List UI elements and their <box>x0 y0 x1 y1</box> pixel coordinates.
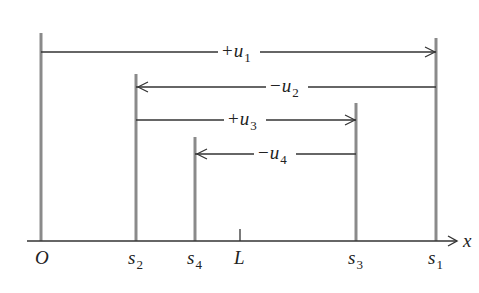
displacement-diagram: +u1−u2+u3−u4 x Os2s4Ls3s1 <box>0 0 479 293</box>
displacement-u3: +u3 <box>136 108 356 133</box>
displacement-u1: +u1 <box>41 40 436 65</box>
point-label-s2: s2 <box>128 247 143 272</box>
displacement-label-u2: −u2 <box>270 75 299 100</box>
position-lines <box>41 33 436 241</box>
point-label-O: O <box>35 247 49 268</box>
point-label-s1: s1 <box>428 247 443 272</box>
x-axis: x <box>27 230 472 251</box>
displacement-label-u4: −u4 <box>258 142 287 167</box>
displacement-u4: −u4 <box>195 142 356 167</box>
point-label-L: L <box>233 247 245 268</box>
displacement-arrows: +u1−u2+u3−u4 <box>41 40 436 167</box>
point-labels: Os2s4Ls3s1 <box>35 247 443 272</box>
displacement-label-u3: +u3 <box>228 108 257 133</box>
displacement-u2: −u2 <box>136 75 436 100</box>
point-label-s3: s3 <box>348 247 363 272</box>
point-label-s4: s4 <box>187 247 202 272</box>
x-axis-label: x <box>462 230 472 251</box>
displacement-label-u1: +u1 <box>222 40 251 65</box>
